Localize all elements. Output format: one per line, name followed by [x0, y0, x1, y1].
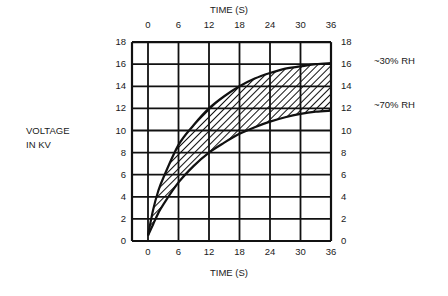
plot-area	[0, 0, 448, 296]
